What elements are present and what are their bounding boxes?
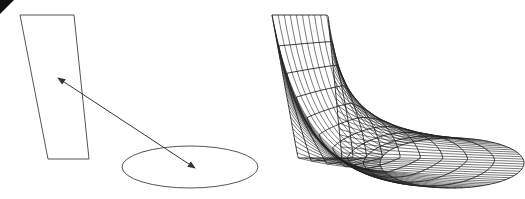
wireframe-rulings	[272, 15, 524, 188]
wireframe-sections	[272, 15, 524, 188]
diagram-canvas	[0, 0, 525, 199]
correspondence-arrow	[58, 78, 195, 168]
ellipse-profile	[122, 146, 258, 188]
quad-profile	[20, 15, 89, 159]
right-panel-wireframe	[272, 15, 524, 188]
diagram-svg	[0, 0, 525, 199]
left-panel-profiles	[20, 15, 258, 188]
